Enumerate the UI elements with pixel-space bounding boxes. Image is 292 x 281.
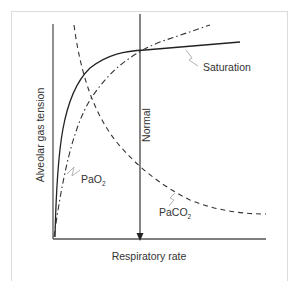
y-axis-label: Alveolar gas tension [34,88,46,183]
x-axis-label: Respiratory rate [112,250,187,262]
saturation-leader [186,50,198,66]
pao2-label: PaO2 [81,173,106,187]
pao2-leader [67,167,80,176]
normal-arrow-icon [137,233,144,241]
normal-label: Normal [140,108,152,142]
saturation-label: Saturation [203,61,251,73]
paco2-leader [169,193,175,206]
paco2-label: PaCO2 [159,206,192,220]
